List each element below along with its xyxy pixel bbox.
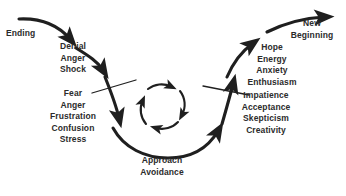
- label-hope-line-0: Hope: [232, 42, 312, 54]
- label-impatience-line-0: Impatience: [224, 90, 308, 102]
- label-hope: Hope Energy Anxiety Enthusiasm: [232, 42, 312, 88]
- label-ending-line-0: Ending: [6, 28, 35, 40]
- label-ending: Ending: [6, 28, 35, 40]
- label-fear-line-3: Confusion: [34, 123, 112, 135]
- label-denial-line-2: Shock: [44, 64, 102, 76]
- label-new-beginning-line-0: New: [283, 18, 341, 30]
- label-approach: Approach Avoidance: [122, 155, 202, 178]
- label-denial-line-1: Anger: [44, 53, 102, 65]
- label-approach-line-1: Avoidance: [122, 167, 202, 179]
- loop-icon: [141, 84, 185, 128]
- label-hope-line-2: Anxiety: [232, 65, 312, 77]
- label-denial-line-0: Denial: [44, 41, 102, 53]
- label-new-beginning-line-1: Beginning: [283, 30, 341, 42]
- label-fear-line-4: Stress: [34, 134, 112, 146]
- label-impatience-line-2: Skepticism: [224, 113, 308, 125]
- label-impatience-line-1: Acceptance: [224, 102, 308, 114]
- label-fear-line-0: Fear: [34, 88, 112, 100]
- label-denial: Denial Anger Shock: [44, 41, 102, 76]
- transition-curve-diagram: Ending Denial Anger Shock Fear Anger Fru…: [0, 0, 346, 196]
- label-fear-line-1: Anger: [34, 100, 112, 112]
- label-new-beginning: New Beginning: [283, 18, 341, 41]
- label-approach-line-0: Approach: [122, 155, 202, 167]
- label-impatience-line-3: Creativity: [224, 125, 308, 137]
- label-fear-line-2: Frustration: [34, 111, 112, 123]
- label-fear: Fear Anger Frustration Confusion Stress: [34, 88, 112, 146]
- label-hope-line-1: Energy: [232, 54, 312, 66]
- trough-arrow: [113, 128, 218, 158]
- label-hope-line-3: Enthusiasm: [232, 77, 312, 89]
- label-impatience: Impatience Acceptance Skepticism Creativ…: [224, 90, 308, 136]
